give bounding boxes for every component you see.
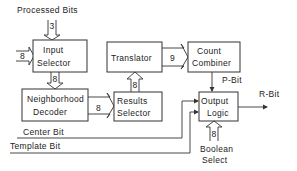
- bus-width-results-translator: 8: [133, 80, 138, 90]
- bus-width-decoder-results: 8: [96, 103, 101, 113]
- processed-bits-label: Processed Bits: [17, 5, 78, 15]
- results-selector-block: Results Selector: [114, 92, 162, 121]
- decoder-label-1: Neighborhood: [27, 94, 84, 104]
- bus-width-input-decoder: 8: [53, 74, 58, 84]
- output-logic-label-2: Logic: [207, 108, 229, 118]
- bus-width-side: 8: [20, 51, 25, 61]
- r-bit-label: R-Bit: [259, 89, 280, 99]
- output-logic-block: Output Logic: [199, 92, 238, 121]
- count-combiner-label-2: Combiner: [192, 58, 231, 68]
- boolean-select-label-1: Boolean: [200, 144, 233, 154]
- output-logic-label-1: Output: [201, 96, 229, 106]
- results-selector-label-2: Selector: [117, 108, 151, 118]
- results-selector-label-1: Results: [117, 96, 147, 106]
- bus-width-boolean: 8: [212, 129, 217, 139]
- translator-to-combiner-bus: [162, 44, 188, 69]
- bus-width-translator-combiner: 9: [170, 53, 175, 63]
- bus-width-processed: 3: [50, 21, 55, 31]
- decoder-to-results-bus: [88, 93, 114, 118]
- translator-block: Translator: [107, 42, 162, 72]
- count-combiner-block: Count Combiner: [188, 42, 240, 72]
- input-selector-block: Input Selector: [33, 40, 87, 72]
- boolean-select-label-2: Select: [202, 155, 228, 165]
- template-bit-label: Template Bit: [10, 141, 61, 151]
- count-combiner-label-1: Count: [197, 46, 222, 56]
- neighborhood-decoder-block: Neighborhood Decoder: [22, 89, 88, 121]
- input-selector-label-1: Input: [43, 45, 64, 55]
- block-diagram: Processed Bits 3 8 Input Selector 8 Neig…: [0, 0, 297, 171]
- input-selector-label-2: Selector: [37, 58, 71, 68]
- center-bit-label: Center Bit: [23, 127, 64, 137]
- translator-label: Translator: [111, 53, 152, 63]
- p-bit-label: P-Bit: [222, 75, 242, 85]
- decoder-label-2: Decoder: [33, 107, 67, 117]
- input-selector-side-bus: [16, 47, 34, 65]
